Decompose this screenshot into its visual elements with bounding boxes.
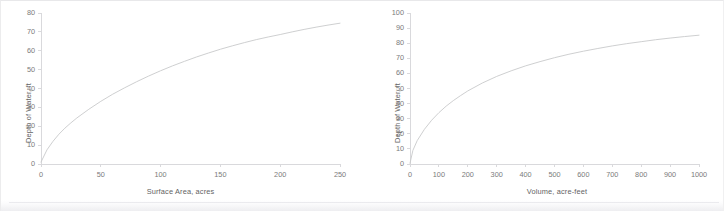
figure-panel: Depth of Water, ft Surface Area, acres 0… [0,0,724,211]
plot-area [3,1,363,201]
chart-volume: Depth of Water, ft Volume, acre-feet 010… [369,1,721,201]
chart-surface-area: Depth of Water, ft Surface Area, acres 0… [3,1,363,201]
panel-bottom-edge [1,200,723,211]
plot-area [369,1,721,201]
